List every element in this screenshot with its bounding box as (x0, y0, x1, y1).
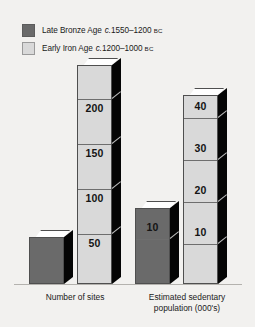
category-label-line2: population (000's) (132, 303, 242, 314)
segment-divider (184, 202, 217, 203)
segment-value-label: 50 (78, 237, 111, 249)
chart-plot-area: 200 150 100 50 10 40 30 (0, 0, 255, 327)
bar-side-face (218, 88, 227, 284)
chart-baseline-axis (14, 284, 242, 285)
bar-late-bronze-age-number-of-sites (29, 237, 64, 284)
segment-value-label: 100 (78, 192, 111, 204)
segment-divider (78, 99, 111, 100)
segment-divider (78, 189, 111, 190)
category-label-number-of-sites: Number of sites (20, 292, 130, 303)
bar-side-face (64, 230, 73, 284)
segment-value-label: 40 (184, 100, 217, 112)
bar-late-bronze-age-population: 10 (135, 208, 170, 284)
segment-value-label: 200 (78, 102, 111, 114)
bar-front-face: 40 30 20 10 (183, 95, 218, 284)
category-label-line1: Estimated sedentary (132, 292, 242, 303)
segment-value-label: 30 (184, 142, 217, 154)
segment-divider (184, 244, 217, 245)
segment-divider (136, 239, 169, 240)
bar-early-iron-age-number-of-sites: 200 150 100 50 (77, 65, 112, 284)
bar-front-face: 200 150 100 50 (77, 65, 112, 284)
segment-value-label: 10 (136, 221, 169, 233)
segment-divider (78, 234, 111, 235)
segment-divider (184, 160, 217, 161)
segment-value-label: 20 (184, 184, 217, 196)
segment-divider (184, 118, 217, 119)
segment-value-label: 150 (78, 147, 111, 159)
bar-side-face (170, 201, 179, 284)
bar-front-face (29, 237, 64, 284)
bar-early-iron-age-population: 40 30 20 10 (183, 95, 218, 284)
category-label-population: Estimated sedentary population (000's) (132, 292, 242, 314)
bar-front-face: 10 (135, 208, 170, 284)
segment-divider (78, 144, 111, 145)
segment-value-label: 10 (184, 226, 217, 238)
